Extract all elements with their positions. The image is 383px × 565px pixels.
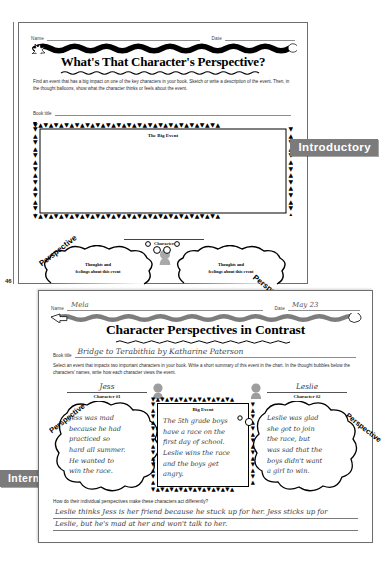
sheet2-big-event-line-4: and the boys get: [163, 460, 219, 468]
sheet2-answer-text-1: Leslie thinks Jess is her friend because…: [55, 508, 328, 516]
sheet2-bubble-right-line-1: she got to join: [267, 425, 315, 433]
sheet1-title: What's That Character's Perspective?: [19, 54, 307, 70]
sheet1-bubble-left-line1: Thoughts and: [85, 262, 111, 267]
sheet2-title: Character Perspectives in Contrast: [39, 322, 372, 338]
sheet2-bubble-left-line-3: hard all summer.: [69, 446, 125, 454]
banner-introductory: Introductory: [290, 139, 378, 156]
sheet1-instructions: Find an event that has a big impact on o…: [33, 79, 291, 93]
sheet2-question: How do their individual perspectives mak…: [53, 499, 358, 504]
sheet1-bubble-right-text: Thoughts and feelings about this event: [182, 262, 280, 275]
sheet2-name-field[interactable]: Mela: [67, 302, 263, 311]
sheet2-name-date-row: Name Mela Date May 23: [51, 299, 360, 311]
sheet2-name-label: Name: [51, 306, 64, 311]
sheet2-name-value: Mela: [71, 301, 89, 309]
sheet2-bubble-right-tail: [235, 413, 257, 429]
sheet1-name-date-row: Name Date: [31, 29, 295, 41]
sheet2-book-title-label: Book title: [53, 353, 72, 358]
sheet2-bubble-right-line-0: Leslie was glad: [267, 414, 318, 422]
sheet1-big-event-label: The Big Event: [33, 133, 293, 138]
sheet2-book-title-field[interactable]: Bridge to Terabithia by Katharine Paters…: [75, 349, 356, 358]
sheet1-top-squiggle-rule: [29, 43, 297, 54]
sheet2-box-border-bottom: ▼▲▼▲▼▲▼▲▼▲▼▲▼▲▼▲▼▲: [151, 486, 255, 493]
sheet1-bubble-right-line1: Thoughts and: [218, 262, 244, 267]
sheet2-box-border-left: ▼▲▼▲▼▲▼▲▼▲▼▲▼▲: [151, 401, 158, 491]
sheet2-big-event-line-1: have a race on the: [163, 428, 225, 436]
sheet2-character2-name-field[interactable]: Leslie: [267, 381, 347, 393]
sheet2-bubble-right-line-5: a girl to win.: [267, 467, 310, 475]
sheet2-big-event-line-0: The 5th grade boys: [163, 417, 228, 425]
sheet1-big-event-box[interactable]: ▼▲▼▲▼▲▼▲▼▲▼▲▼▲▼▲▼▲▼▲▼▲▼▲▼▲▼▲▼▲▼▲▼▲▼▲ ▼▲▼…: [33, 122, 293, 220]
worksheet-intermediate: Name Mela Date May 23 Character Perspect…: [38, 290, 373, 543]
sheet1-date-field[interactable]: [225, 32, 295, 41]
sheet2-instructions: Select an event that impacts two importa…: [53, 363, 358, 377]
sheet2-date-value: May 23: [292, 301, 318, 309]
sheet2-book-title-row: Book title Bridge to Terabithia by Katha…: [53, 349, 356, 358]
sheet2-big-event-line-3: Leslie wins the race: [163, 449, 230, 457]
sheet2-bubble-right-line-3: was sad that the: [267, 446, 322, 454]
sheet1-box-border-left: ▼▲▼▲▼▲▼▲▼▲▼▲▼▲: [33, 126, 41, 216]
sheet2-bubble-left-text: Jess was mad because he had practiced so…: [69, 413, 151, 477]
sheet2-bubble-left-line-1: because he had: [69, 425, 121, 433]
sheet2-book-title-value: Bridge to Terabithia by Katharine Paters…: [78, 347, 244, 356]
sheet2-answer-text-2: Leslie, but he's mad at her and won't ta…: [55, 520, 227, 528]
sheet1-name-field[interactable]: [47, 32, 200, 41]
page-number: 46: [5, 278, 12, 284]
sheet2-date-field[interactable]: May 23: [288, 302, 360, 311]
worksheet-introductory: Name Date What's That Character's Perspe…: [18, 22, 308, 284]
sheet2-title-underline-squiggle: [114, 339, 297, 345]
sheet1-bubble-left-text: Thoughts and feelings about this event: [49, 262, 147, 275]
sheet1-title-underline-squiggle: [59, 70, 267, 76]
sheet2-character2-label: Character #2: [267, 394, 347, 399]
sheet2-big-event-line-2: first day of school.: [163, 438, 225, 446]
sheet2-bubble-right-line-2: the race, but: [267, 435, 310, 443]
sheet2-character2: Leslie Character #2: [267, 381, 347, 399]
sheet2-bubble-left-line-5: win the race.: [69, 467, 113, 475]
sheet2-character2-name: Leslie: [267, 382, 347, 391]
sheet1-book-title-label: Book title: [33, 111, 52, 116]
sheet1-date-label: Date: [211, 36, 222, 41]
sheet2-date-label: Date: [274, 306, 285, 311]
binder-spine: [13, 22, 14, 284]
sheet2-character1: Jess Character #1: [67, 381, 147, 399]
sheet2-big-event-line-5: angry.: [163, 470, 184, 478]
sheet2-bubble-left-line-4: He wanted to: [69, 457, 114, 465]
sheet2-bubble-right-line-4: boys didn't want: [267, 457, 322, 465]
sheet1-name-label: Name: [31, 36, 44, 41]
sheet1-box-border-bottom: ▼▲▼▲▼▲▼▲▼▲▼▲▼▲▼▲▼▲▼▲▼▲▼▲▼▲▼▲▼▲▼▲▼▲▼▲: [33, 212, 293, 220]
sheet2-bubble-right-text: Leslie was glad she got to join the race…: [267, 413, 351, 477]
sheet1-bubble-right-line2: feelings about this event: [208, 269, 253, 274]
sheet2-character1-label: Character #1: [67, 394, 147, 399]
sheet1-bubble-right-tail: [161, 239, 189, 255]
sheet1-book-title-row: Book title: [33, 107, 291, 116]
sheet2-big-event-box[interactable]: ▼▲▼▲▼▲▼▲▼▲▼▲▼▲▼▲▼▲ ▼▲▼▲▼▲▼▲▼▲▼▲▼▲▼▲▼▲ ▼▲…: [151, 397, 255, 493]
sheet2-bubble-left-line-2: practiced so: [69, 435, 110, 443]
sheet2-big-event-label: Big Event: [151, 407, 255, 412]
sheet2-character1-name: Jess: [67, 382, 147, 391]
sheet2-character1-name-field[interactable]: Jess: [67, 381, 147, 393]
sheet1-bubble-left-line2: feelings about this event: [75, 269, 120, 274]
sheet1-book-title-field[interactable]: [55, 107, 291, 116]
sheet2-box-border-top: ▼▲▼▲▼▲▼▲▼▲▼▲▼▲▼▲▼▲: [151, 396, 255, 403]
sheet1-box-border-top: ▼▲▼▲▼▲▼▲▼▲▼▲▼▲▼▲▼▲▼▲▼▲▼▲▼▲▼▲▼▲▼▲▼▲▼▲: [33, 121, 293, 129]
